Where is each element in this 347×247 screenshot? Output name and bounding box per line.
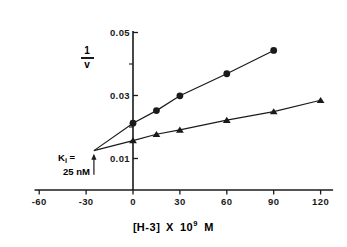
- x-axis-title: [H-3]X109M: [0, 219, 347, 233]
- x-title-bracket-close: ]: [156, 221, 160, 233]
- y-axis-title-denominator: v: [72, 59, 102, 70]
- ki-annotation: Ki = 25 nM: [58, 152, 90, 179]
- series-line: [94, 100, 321, 150]
- x-tick-label: 60: [207, 196, 247, 207]
- ki-equals: =: [70, 152, 76, 163]
- series-line: [94, 50, 274, 150]
- x-title-times: X: [166, 221, 174, 233]
- x-tick-label: -60: [19, 196, 59, 207]
- x-tick-label: -30: [66, 196, 106, 207]
- x-tick-label: 0: [113, 196, 153, 207]
- data-point-circle: [153, 107, 160, 114]
- data-point-circle: [130, 120, 137, 127]
- ki-label: K: [58, 152, 65, 163]
- plot-canvas: [0, 0, 347, 247]
- x-title-exponent: 9: [193, 219, 198, 228]
- ki-subscript: i: [65, 156, 67, 165]
- ki-value: 25 nM: [58, 166, 90, 179]
- data-point-circle: [270, 47, 277, 54]
- x-tick-label: 90: [254, 196, 294, 207]
- x-tick-label: 30: [160, 196, 200, 207]
- data-point-circle: [223, 70, 230, 77]
- data-point-triangle: [317, 97, 325, 103]
- y-axis-title: 1 v: [72, 46, 102, 70]
- dixon-plot-figure: 1 v Ki = 25 nM [H-3]X109M -60-3003060901…: [0, 0, 347, 247]
- y-tick-label: 0.03: [87, 90, 130, 101]
- y-tick-label: 0.05: [87, 27, 130, 38]
- x-tick-label: 120: [301, 196, 341, 207]
- x-title-species: H-3: [137, 221, 157, 233]
- y-tick-label: 0.01: [87, 153, 130, 164]
- data-point-circle: [176, 92, 183, 99]
- x-title-mantissa: 10: [180, 221, 193, 233]
- y-axis-title-numerator: 1: [72, 46, 102, 57]
- x-title-unit: M: [204, 221, 214, 233]
